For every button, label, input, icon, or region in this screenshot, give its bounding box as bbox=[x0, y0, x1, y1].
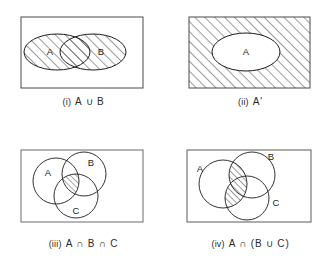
panel-expression-ii: A′ bbox=[253, 96, 263, 107]
set-label-c: C bbox=[273, 197, 280, 208]
set-label-b: B bbox=[88, 157, 94, 168]
panel-expression-iii: A ∩ B ∩ C bbox=[66, 238, 119, 249]
panel-number-i: (i) bbox=[63, 97, 72, 107]
set-label-b: B bbox=[268, 151, 274, 162]
panel-number-iv: (iv) bbox=[211, 239, 224, 249]
universe-rectangle bbox=[21, 150, 143, 222]
venn-figure-ii: A bbox=[167, 0, 334, 134]
set-label-b: B bbox=[98, 46, 104, 57]
venn-figure-i: A B bbox=[0, 0, 167, 134]
venn-panel-intersection-abc: A B C (iii)A ∩ B ∩ C bbox=[0, 134, 167, 268]
set-label-a: A bbox=[47, 46, 54, 57]
panel-expression-iv: A ∩ (B ∪ C) bbox=[229, 238, 290, 249]
panel-number-ii: (ii) bbox=[238, 97, 249, 107]
set-label-a: A bbox=[197, 163, 204, 174]
panel-caption-iv: (iv)A ∩ (B ∪ C) bbox=[167, 238, 334, 249]
set-label-a: A bbox=[45, 167, 52, 178]
set-label-c: C bbox=[73, 205, 80, 216]
complement-hatch-fill bbox=[189, 17, 310, 88]
venn-panel-a-intersect-b-union-c: A B C (iv)A ∩ (B ∪ C) bbox=[167, 134, 334, 268]
set-label-a: A bbox=[243, 46, 250, 57]
panel-number-iii: (iii) bbox=[49, 239, 62, 249]
venn-panel-grid: A B (i)A ∪ B bbox=[0, 0, 334, 268]
panel-caption-i: (i)A ∪ B bbox=[0, 96, 167, 107]
venn-panel-union-ab: A B (i)A ∪ B bbox=[0, 0, 167, 134]
figure-sheet: A B (i)A ∪ B bbox=[0, 0, 334, 268]
panel-caption-ii: (ii)A′ bbox=[167, 96, 334, 107]
panel-expression-i: A ∪ B bbox=[75, 96, 104, 107]
venn-panel-complement-a: A (ii)A′ bbox=[167, 0, 334, 134]
panel-caption-iii: (iii)A ∩ B ∩ C bbox=[0, 238, 167, 249]
